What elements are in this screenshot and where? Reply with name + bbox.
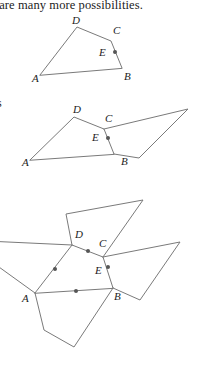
fig3-label-D: D [74,228,83,240]
fig3-left-shape [0,241,72,293]
fig3-label-A: A [21,292,29,304]
fig3-midpoint-ab-dot [74,289,78,293]
figure-3-tessellation: A B C D E [0,0,198,375]
fig3-point-e-dot [106,265,110,269]
fig3-midpoint-dc-dot [86,249,90,253]
fig3-label-E: E [94,264,102,276]
fig3-label-C: C [99,237,107,249]
fig3-midpoint-ad-dot [53,267,57,271]
worksheet-page: re are many more possibilities. s A B C … [0,0,198,375]
fig3-label-B: B [114,290,121,302]
fig3-lower-shape [35,288,113,347]
